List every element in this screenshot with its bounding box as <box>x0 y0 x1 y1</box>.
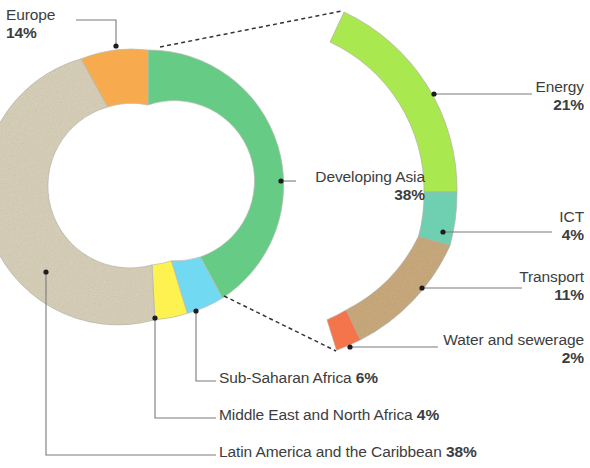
main-donut <box>0 49 284 325</box>
label-europe-name: Europe <box>6 6 55 23</box>
anchor-dot-middle-east-north-africa <box>152 315 157 320</box>
label-middle-east-north-africa-name: Middle East and North Africa <box>219 406 413 423</box>
anchor-dot-europe <box>113 43 118 48</box>
label-water-and-sewerage-pct: 2% <box>562 349 584 366</box>
explosion-guide-top <box>160 11 342 47</box>
label-transport: Transport 11% <box>420 268 584 305</box>
label-middle-east-north-africa: Middle East and North Africa 4% <box>219 406 439 424</box>
label-energy: Energy 21% <box>450 78 584 115</box>
label-sub-saharan-africa-pct: 6% <box>356 369 378 386</box>
label-europe: Europe 14% <box>6 6 55 43</box>
donut-slice-developing-asia[interactable] <box>148 50 284 298</box>
label-sub-saharan-africa: Sub-Saharan Africa 6% <box>219 369 378 387</box>
leader-line-europe <box>76 20 116 46</box>
anchor-dot-energy <box>431 91 436 96</box>
anchor-dot-sub-saharan-africa <box>193 308 198 313</box>
label-energy-pct: 21% <box>553 96 584 113</box>
anchor-dot-ict <box>440 229 445 234</box>
label-water-and-sewerage-name: Water and sewerage <box>443 331 584 348</box>
label-transport-name: Transport <box>519 268 584 285</box>
label-transport-pct: 11% <box>554 286 584 303</box>
label-developing-asia: Developing Asia 38% <box>295 168 425 205</box>
label-ict-name: ICT <box>559 208 584 225</box>
leader-line-middle-east-north-africa <box>155 318 216 418</box>
label-developing-asia-name: Developing Asia <box>315 168 425 185</box>
label-water-and-sewerage: Water and sewerage 2% <box>404 331 584 368</box>
anchor-dot-water <box>347 344 352 349</box>
label-ict-pct: 4% <box>562 226 584 243</box>
explosion-guide-bottom <box>224 296 336 351</box>
anchor-dot-developing-asia <box>278 178 283 183</box>
arc-slice-energy[interactable] <box>330 12 457 192</box>
label-latin-america: Latin America and the Caribbean 38% <box>219 443 477 461</box>
label-latin-america-pct: 38% <box>446 443 477 460</box>
label-developing-asia-pct: 38% <box>394 186 425 203</box>
label-energy-name: Energy <box>535 78 584 95</box>
label-middle-east-north-africa-pct: 4% <box>417 406 439 423</box>
label-sub-saharan-africa-name: Sub-Saharan Africa <box>219 369 352 386</box>
leader-line-sub-saharan-africa <box>196 311 216 381</box>
anchor-dot-latin-america <box>43 269 48 274</box>
label-europe-pct: 14% <box>6 24 37 41</box>
label-latin-america-name: Latin America and the Caribbean <box>219 443 442 460</box>
label-ict: ICT 4% <box>450 208 584 245</box>
